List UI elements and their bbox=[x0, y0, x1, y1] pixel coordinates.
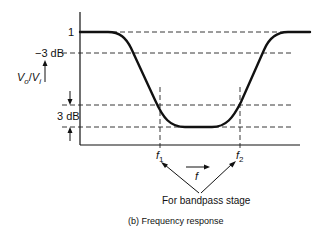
f1-sub: 1 bbox=[159, 155, 163, 164]
frequency-response-plot bbox=[0, 0, 332, 227]
band-3db-label: 3 dB bbox=[57, 110, 80, 122]
frequency-direction-arrow-icon bbox=[186, 165, 210, 170]
y-axis-label: Vo/Vi bbox=[17, 71, 41, 88]
band-3db-bottom-arrow-icon bbox=[68, 127, 73, 141]
y-label-sub-i: i bbox=[39, 77, 41, 86]
band-3db-top-arrow-icon bbox=[68, 91, 73, 105]
f1-label: f1 bbox=[156, 149, 164, 166]
minus-3db-label: −3 dB bbox=[35, 47, 64, 59]
unity-label: 1 bbox=[68, 26, 74, 38]
response-curve bbox=[80, 32, 310, 127]
frequency-axis-label: f bbox=[195, 170, 198, 182]
annotation-text: For bandpass stage bbox=[162, 195, 250, 207]
y-axis-arrow-icon bbox=[43, 60, 48, 82]
f2-sub: 2 bbox=[239, 155, 243, 164]
figure-caption: (b) Frequency response bbox=[128, 215, 224, 227]
f2-label: f2 bbox=[236, 149, 244, 166]
